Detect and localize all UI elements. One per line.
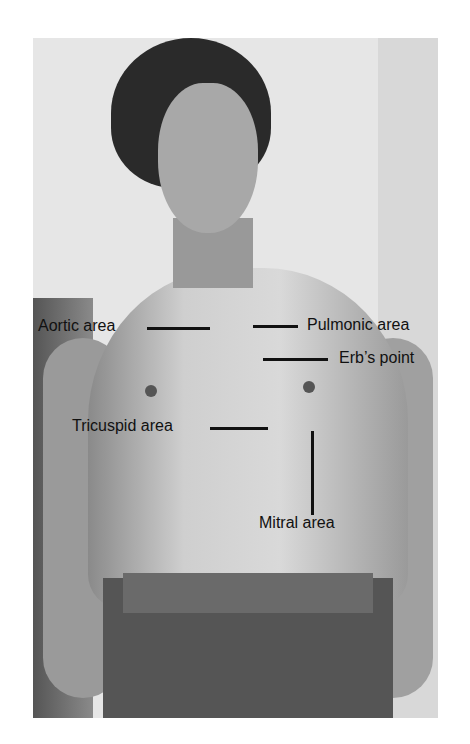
left-nipple [145, 385, 157, 397]
label-erbs-point: Erb’s point [339, 349, 414, 367]
pointer-tricuspid [210, 427, 268, 430]
pointer-aortic [147, 327, 210, 330]
face [158, 83, 258, 233]
label-pulmonic-area: Pulmonic area [307, 316, 409, 334]
belt [123, 573, 373, 613]
label-tricuspid-area: Tricuspid area [72, 417, 173, 435]
pointer-pulmonic [253, 325, 298, 328]
label-mitral-area: Mitral area [259, 514, 335, 532]
chest-photograph [33, 38, 438, 718]
pointer-erbs [263, 358, 328, 361]
pointer-mitral [311, 431, 314, 515]
right-nipple [303, 381, 315, 393]
label-aortic-area: Aortic area [38, 317, 115, 335]
